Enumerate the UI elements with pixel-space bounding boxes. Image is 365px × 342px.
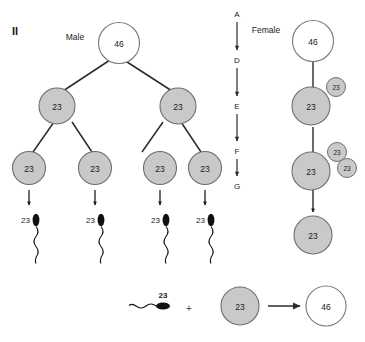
cell-chromosome-count: 23 [235,302,245,312]
stage-letter-e: E [234,102,239,111]
sperm-cell-2: 23 [86,214,104,264]
male-spermatid-4: 23 [189,152,222,185]
connector-sec-left-to-spermatid-1 [33,122,54,152]
polar-body-chromosome-count: 23 [343,165,351,172]
sperm-head-icon [208,214,215,226]
cell-chromosome-count: 23 [90,164,100,174]
cell-chromosome-count: 46 [321,302,331,312]
cell-chromosome-count: 23 [306,167,316,177]
sperm-chromosome-count: 23 [21,216,30,225]
sperm-cell-3: 23 [151,214,169,264]
male-secondary-spermatocyte-right: 23 [160,88,196,124]
gametogenesis-figure: II Male Female 46 23 23 [0,0,365,342]
plus-symbol: + [186,303,192,314]
male-secondary-spermatocyte-left: 23 [39,88,75,124]
female-primary-oocyte: 46 [293,21,334,62]
stage-axis: A D E F G [234,10,240,191]
sperm-chromosome-count: 23 [151,216,160,225]
cell-chromosome-count: 23 [306,102,316,112]
cell-chromosome-count: 23 [173,102,183,112]
male-primary-spermatocyte: 46 [99,23,140,64]
sperm-head-icon [156,302,170,309]
male-column-label: Male [66,32,85,42]
cell-chromosome-count: 46 [308,37,318,47]
stage-letter-g: G [234,182,240,191]
female-secondary-oocyte: 23 [292,87,330,125]
female-ovum: 23 [294,216,332,254]
first-polar-body: 23 [327,78,346,97]
sperm-tail-icon [129,304,156,308]
sperm-head-icon [98,214,105,226]
sperm-head-icon [33,214,40,226]
connector-primary-to-secondary-right [124,60,172,91]
connector-sec-left-to-spermatid-2 [72,122,92,152]
male-spermatid-1: 23 [13,152,46,185]
sperm-cell-1: 23 [21,214,39,264]
fertilization-egg: 23 [221,287,259,325]
second-polar-body-2: 23 [338,159,357,178]
connector-sec-right-to-spermatid-4 [181,122,201,152]
zygote: 46 [306,286,346,326]
sperm-tail-icon [209,227,213,264]
polar-body-chromosome-count: 23 [333,149,341,156]
cell-chromosome-count: 46 [114,39,124,49]
sperm-tail-icon [34,227,38,264]
cell-chromosome-count: 23 [52,102,62,112]
stage-letter-f: F [235,147,240,156]
connector-sec-right-to-spermatid-3 [142,122,163,152]
gametogenesis-diagram: II Male Female 46 23 23 [0,0,365,342]
cell-chromosome-count: 23 [155,164,165,174]
stage-letter-a: A [234,10,240,19]
male-spermatid-3: 23 [144,152,177,185]
sperm-head-icon [163,214,170,226]
cell-chromosome-count: 23 [200,164,210,174]
sperm-tail-icon [164,227,168,264]
fertilization-sperm-count: 23 [159,291,168,300]
connector-primary-to-secondary-left [63,60,110,91]
polar-body-chromosome-count: 23 [332,84,340,91]
stage-letter-d: D [234,56,240,65]
cell-chromosome-count: 23 [308,231,318,241]
female-column-label: Female [252,25,281,35]
female-ootid: 23 [292,152,330,190]
spermiogenesis-arrows [29,190,205,205]
sperm-chromosome-count: 23 [86,216,95,225]
sperm-cell-4: 23 [196,214,214,264]
sperm-chromosome-count: 23 [196,216,205,225]
male-spermatid-2: 23 [79,152,112,185]
cell-chromosome-count: 23 [24,164,34,174]
fertilization-sperm: 23 [129,291,170,310]
sperm-tail-icon [99,227,103,264]
panel-label: II [12,25,18,37]
